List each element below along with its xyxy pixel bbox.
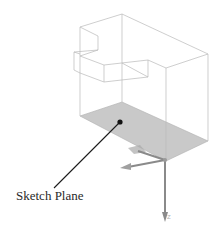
- origin-point: [163, 158, 167, 162]
- z-axis-label: Z: [167, 214, 171, 220]
- callout-dot: [117, 119, 122, 124]
- callout-leader-line: [54, 122, 120, 188]
- x-axis-arrow: [128, 160, 165, 167]
- coordinate-triad: [120, 151, 168, 222]
- sketch-plane-label: Sketch Plane: [16, 188, 84, 204]
- x-arrow-head: [120, 163, 131, 170]
